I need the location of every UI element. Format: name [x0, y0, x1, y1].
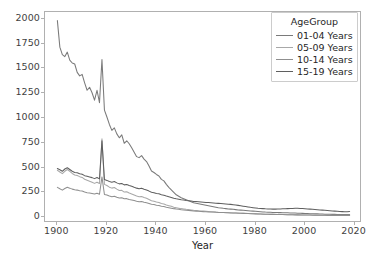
- x-tick-mark: [304, 222, 305, 225]
- x-tick-label: 2020: [334, 226, 374, 236]
- legend-line-icon: [276, 71, 293, 72]
- legend-item[interactable]: 10-14 Years: [276, 53, 353, 65]
- x-tick-mark: [155, 222, 156, 225]
- x-tick-label: 1940: [135, 226, 175, 236]
- legend-item[interactable]: 05-09 Years: [276, 41, 353, 53]
- legend-title: AgeGroup: [276, 16, 353, 27]
- x-tick-mark: [255, 222, 256, 225]
- line-chart-figure: 025050075010001250150017502000 190019201…: [0, 0, 376, 266]
- legend-item-label: 15-19 Years: [297, 66, 353, 77]
- x-tick-mark: [354, 222, 355, 225]
- legend-entries: 01-04 Years05-09 Years10-14 Years15-19 Y…: [276, 29, 353, 77]
- x-axis-label: Year: [44, 240, 361, 251]
- x-tick-label: 1960: [185, 226, 225, 236]
- legend-item[interactable]: 01-04 Years: [276, 29, 353, 41]
- legend: AgeGroup 01-04 Years05-09 Years10-14 Yea…: [271, 12, 358, 82]
- x-tick-mark: [106, 222, 107, 225]
- x-tick-label: 1900: [36, 226, 76, 236]
- legend-line-icon: [276, 47, 293, 48]
- x-tick-mark: [56, 222, 57, 225]
- legend-line-icon: [276, 35, 293, 36]
- x-tick-label: 2000: [284, 226, 324, 236]
- legend-item-label: 05-09 Years: [297, 42, 353, 53]
- x-tick-label: 1920: [86, 226, 126, 236]
- legend-item-label: 01-04 Years: [297, 30, 353, 41]
- legend-item-label: 10-14 Years: [297, 54, 353, 65]
- x-tick-mark: [205, 222, 206, 225]
- legend-line-icon: [276, 59, 293, 60]
- x-tick-label: 1980: [235, 226, 275, 236]
- legend-item[interactable]: 15-19 Years: [276, 65, 353, 77]
